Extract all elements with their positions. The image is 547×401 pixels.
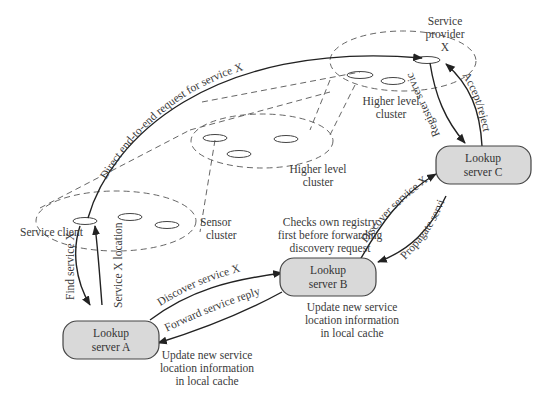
- svg-text:first before forwarding: first before forwarding: [278, 229, 383, 242]
- svg-text:server B: server B: [309, 278, 348, 290]
- svg-text:Lookup: Lookup: [465, 152, 501, 165]
- svg-text:cluster: cluster: [303, 176, 334, 188]
- svg-text:cluster: cluster: [206, 229, 237, 241]
- mid-cluster-label: Higher level: [289, 163, 346, 176]
- lookup-server-c: Lookup server C: [436, 146, 531, 184]
- client-node: [73, 218, 97, 225]
- service-location-arrow: [95, 226, 102, 305]
- svg-text:location information: location information: [160, 362, 254, 374]
- svg-text:server C: server C: [464, 166, 503, 178]
- svg-text:location information: location information: [305, 314, 399, 326]
- lookup-server-a: Lookup server A: [63, 321, 159, 359]
- service-provider-label: Service: [428, 15, 462, 27]
- svg-text:cluster: cluster: [376, 108, 407, 120]
- diagram-canvas: Lookup server A Lookup server B Lookup s…: [0, 0, 547, 401]
- svg-text:X: X: [441, 41, 450, 53]
- svg-text:discovery request: discovery request: [290, 242, 372, 255]
- mid-cluster: [191, 114, 333, 168]
- top-cluster: [330, 31, 476, 91]
- checks-registry-note: Checks own registry first before forward…: [278, 216, 383, 255]
- svg-text:in local cache: in local cache: [320, 327, 383, 339]
- direct-request-label: Direct end-to-end request for service X: [97, 60, 245, 181]
- svg-text:provider: provider: [426, 28, 465, 41]
- sensor-cluster-label: Sensor: [200, 216, 231, 228]
- update-cache-note-b: Update new service location information …: [305, 301, 399, 339]
- svg-text:server A: server A: [92, 341, 131, 353]
- svg-text:Lookup: Lookup: [93, 327, 129, 340]
- top-cluster-label: Higher level: [362, 95, 419, 108]
- svg-text:Update new service: Update new service: [162, 349, 253, 362]
- update-cache-note-a: Update new service location information …: [160, 349, 254, 387]
- lookup-server-b: Lookup server B: [280, 258, 376, 296]
- find-service-label: Find service X: [64, 232, 76, 300]
- svg-text:in local cache: in local cache: [175, 375, 238, 387]
- accept-reject-label: Accept/reject: [460, 70, 493, 133]
- cluster-hierarchy-lines: [40, 72, 360, 232]
- svg-text:Update new service: Update new service: [307, 301, 398, 314]
- service-location-label: Service X location: [112, 222, 124, 308]
- svg-text:Checks own registry: Checks own registry: [283, 216, 378, 229]
- svg-text:Lookup: Lookup: [310, 264, 346, 277]
